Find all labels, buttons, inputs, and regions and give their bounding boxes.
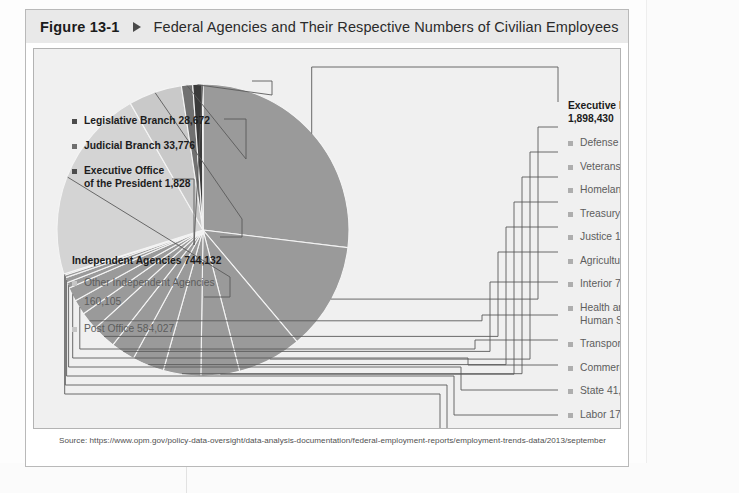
legend-group-heading: Independent Agencies 744,132 [72, 254, 272, 267]
triangle-right-icon [133, 22, 141, 32]
legend-item-defense-728-823[interactable]: Defense 728,823 [568, 136, 621, 149]
legend-item-list: Defense 728,823Veterans Affairs 323,208H… [568, 136, 621, 429]
legend-label: Other Independent Agencies [84, 276, 215, 289]
chart-plate: Legislative Branch 28,672 Judicial Branc… [33, 48, 621, 429]
legend-branches: Legislative Branch 28,672 Judicial Branc… [72, 114, 258, 202]
legend-label: Post Office 584,027 [84, 322, 174, 335]
page-fold-line [186, 463, 187, 493]
legend-item-legislative-branch[interactable]: Legislative Branch 28,672 [72, 114, 258, 127]
legend-group-heading-line2: 1,898,430 [568, 112, 621, 125]
legend-bullet-icon [72, 119, 77, 124]
legend-bullet-icon [72, 169, 77, 174]
legend-label-line2: of the President 1,828 [84, 177, 190, 190]
legend-group-heading: Executive Departments 1,898,430 [568, 99, 621, 125]
legend-label-wrap: Homeland Security 192,073 [580, 183, 621, 196]
legend-bullet-icon [568, 389, 573, 394]
source-note: Source: https://www.opm.gov/policy-data-… [59, 436, 606, 445]
legend-bullet-icon [568, 188, 573, 193]
legend-item-labor-17-187[interactable]: Labor 17,187 [568, 408, 621, 421]
legend-label-wrap: Defense 728,823 [580, 136, 621, 149]
legend-bullet-icon [568, 413, 573, 418]
legend-independent-agencies: Independent Agencies 744,132 Other Indep… [72, 254, 272, 345]
legend-label: Labor 17,187 [580, 408, 621, 421]
legend-label: Executive Office [84, 164, 190, 177]
legend-label: Justice 115,616 [580, 230, 621, 243]
legend-label-wrap: Treasury 112,461 [580, 207, 621, 220]
legend-bullet-icon [568, 259, 573, 264]
legend-label: Commerce 45,035 [580, 361, 621, 374]
legend-label: Transportation 55,288 [580, 337, 621, 350]
legend-item-agriculture-95-223[interactable]: Agriculture 95,223 [568, 254, 621, 267]
legend-bullet-icon [568, 212, 573, 217]
legend-bullet-icon [72, 327, 77, 332]
legend-item-transportation-55-288[interactable]: Transportation 55,288 [568, 337, 621, 350]
legend-item-judicial-branch[interactable]: Judicial Branch 33,776 [72, 139, 258, 152]
legend-label: Treasury 112,461 [580, 207, 621, 220]
legend-label: Veterans Affairs 323,208 [580, 160, 621, 173]
legend-item-interior-71-543[interactable]: Interior 71,543 [568, 277, 621, 290]
legend-label-wrap: Executive Office of the President 1,828 [84, 164, 190, 190]
legend-label: State 41,768 [580, 384, 621, 397]
legend-label-wrap: State 41,768 [580, 384, 621, 397]
legend-label-line2: Human Services 72,703 [580, 314, 621, 327]
legend-item-health-and[interactable]: Health andHuman Services 72,703 [568, 301, 621, 327]
leader-line-exec-0 [312, 67, 558, 134]
legend-item-veterans-affairs-323-208[interactable]: Veterans Affairs 323,208 [568, 160, 621, 173]
legend-bullet-icon [568, 342, 573, 347]
legend-label: Judicial Branch 33,776 [84, 139, 195, 152]
legend-bullet-icon [72, 144, 77, 149]
legend-label: Legislative Branch 28,672 [84, 114, 210, 127]
legend-item-state-41-768[interactable]: State 41,768 [568, 384, 621, 397]
legend-label-wrap: Transportation 55,288 [580, 337, 621, 350]
legend-bullet-icon [568, 366, 573, 371]
legend-bullet-icon [568, 141, 573, 146]
figure-header: Figure 13-1 Federal Agencies and Their R… [26, 10, 628, 43]
legend-item-executive-office[interactable]: Executive Office of the President 1,828 [72, 164, 258, 190]
legend-label-wrap: Veterans Affairs 323,208 [580, 160, 621, 173]
legend-label: Interior 71,543 [580, 277, 621, 290]
figure-number: Figure 13-1 [40, 19, 120, 35]
legend-item-justice-115-616[interactable]: Justice 115,616 [568, 230, 621, 243]
legend-label: Agriculture 95,223 [580, 254, 621, 267]
legend-label: Defense 728,823 [580, 136, 621, 149]
legend-label-wrap: Health andHuman Services 72,703 [580, 301, 621, 327]
legend-item-homeland-security-192-073[interactable]: Homeland Security 192,073 [568, 183, 621, 196]
legend-label-wrap: Agriculture 95,223 [580, 254, 621, 267]
page-right-margin [646, 0, 739, 493]
legend-bullet-icon [568, 306, 573, 311]
figure-title: Federal Agencies and Their Respective Nu… [154, 19, 619, 35]
legend-item-other-independent-agencies[interactable]: Other Independent Agencies 160,105 [72, 276, 272, 308]
legend-bullet-icon [72, 281, 77, 286]
legend-item-post-office[interactable]: Post Office 584,027 [72, 322, 272, 335]
legend-group-heading-line1: Executive Departments [568, 99, 621, 112]
page-bottom-margin [0, 463, 739, 493]
legend-label-wrap: Other Independent Agencies 160,105 [84, 276, 215, 308]
legend-executive-departments: Executive Departments 1,898,430 Defense … [568, 99, 621, 429]
figure-frame: Figure 13-1 Federal Agencies and Their R… [25, 9, 629, 467]
pie-chart [34, 49, 621, 429]
legend-item-commerce-45-035[interactable]: Commerce 45,035 [568, 361, 621, 374]
legend-label-wrap: Interior 71,543 [580, 277, 621, 290]
legend-bullet-icon [568, 282, 573, 287]
legend-item-treasury-112-461[interactable]: Treasury 112,461 [568, 207, 621, 220]
legend-bullet-icon [568, 235, 573, 240]
legend-label-line2: 160,105 [84, 295, 215, 308]
legend-label-wrap: Commerce 45,035 [580, 361, 621, 374]
legend-bullet-icon [568, 165, 573, 170]
legend-label: Health and [580, 301, 621, 314]
leader-line-exec-1 [331, 127, 558, 299]
legend-label-wrap: Justice 115,616 [580, 230, 621, 243]
legend-label: Homeland Security 192,073 [580, 183, 621, 196]
legend-label-wrap: Labor 17,187 [580, 408, 621, 421]
